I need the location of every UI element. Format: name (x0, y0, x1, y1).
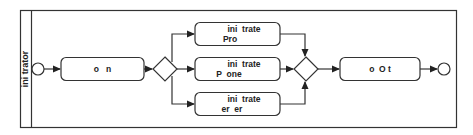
task-1-label: o n (94, 64, 111, 74)
task-middle-label-line2: P one (216, 69, 242, 79)
join-gateway[interactable] (294, 57, 318, 81)
flow-bottom-to-join (280, 82, 305, 104)
task-bottom-label-line2: er er (222, 104, 243, 114)
task-final[interactable]: o O t (340, 58, 420, 81)
task-final-label: o O t (369, 64, 391, 74)
task-bottom-label-line1: ini trate (227, 94, 260, 104)
flow-top-to-join (280, 34, 305, 56)
task-top-label-line2: Pro (223, 34, 237, 44)
task-top-label-line1: ini trate (227, 24, 260, 34)
flow-split-to-top (172, 34, 194, 62)
task-middle[interactable]: ini trate P one (195, 58, 280, 81)
start-event[interactable] (32, 63, 44, 75)
task-top[interactable]: ini trate Pro (195, 23, 280, 46)
task-bottom[interactable]: ini trate er er (195, 93, 280, 116)
split-gateway[interactable] (153, 57, 177, 81)
task-1[interactable]: o n (61, 58, 144, 81)
end-event[interactable] (438, 63, 450, 75)
lane-label: ini trator (20, 50, 30, 87)
flow-split-to-bottom (172, 76, 194, 104)
process-diagram: ini trator o n ini trate Pro (0, 0, 473, 135)
task-middle-label-line1: ini trate (227, 59, 260, 69)
